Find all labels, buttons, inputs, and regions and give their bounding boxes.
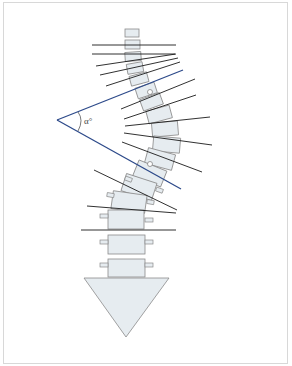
vertebra	[108, 235, 145, 254]
process-nub	[100, 263, 108, 267]
process-nub	[155, 187, 163, 193]
angle-arc	[78, 112, 81, 131]
vertebra	[126, 62, 143, 75]
process-nub	[107, 193, 115, 198]
vertebrae	[108, 29, 181, 277]
process-nub	[145, 263, 153, 267]
vertebra	[108, 210, 144, 229]
angle-label: α°	[84, 116, 93, 126]
sacrum-triangle	[84, 278, 169, 337]
process-nub	[100, 214, 108, 218]
process-nub	[147, 200, 155, 205]
process-nub	[145, 218, 153, 222]
vertebra	[151, 121, 178, 137]
vertebra	[108, 259, 145, 277]
process-nub	[100, 240, 108, 244]
pedicle-marker	[148, 90, 153, 95]
pedicle-marker	[148, 162, 153, 167]
vertebra	[125, 29, 139, 37]
process-nub	[145, 240, 153, 244]
spine-diagram: α°	[0, 0, 292, 366]
vertebra	[125, 40, 140, 49]
